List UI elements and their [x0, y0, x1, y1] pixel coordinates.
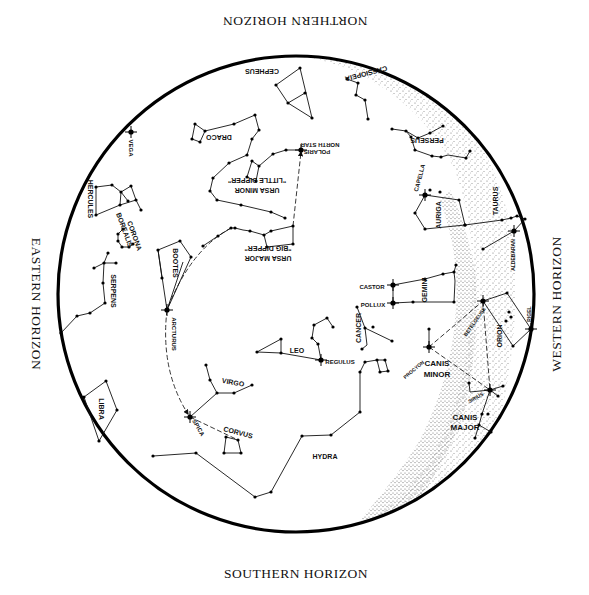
constellation-label: VEGA: [128, 139, 134, 157]
star-icon: [383, 358, 386, 361]
star-icon: [224, 435, 227, 438]
star-icon: [284, 148, 287, 151]
constellation-label: AURIGA: [435, 201, 442, 229]
star-icon: [211, 176, 214, 179]
star-icon: [325, 316, 328, 319]
star-icon: [454, 263, 457, 266]
constellation-regulus: REGULUS: [325, 359, 354, 365]
star-icon: [303, 91, 306, 94]
constellation-bootes: BOOTES: [156, 239, 192, 311]
star-icon: [255, 350, 258, 353]
star-icon: [358, 410, 361, 413]
star-icon: [310, 116, 313, 119]
western-horizon-label: WESTERN HORIZON: [549, 236, 565, 371]
star-icon: [467, 381, 470, 384]
constellation-label: POLLUX: [361, 302, 385, 308]
star-icon: [411, 300, 414, 303]
star-icon: [473, 436, 476, 439]
constellation-cepheus: CEPHEUS: [245, 66, 314, 119]
star-icon: [215, 198, 218, 201]
star-icon: [227, 161, 230, 164]
star-icon: [119, 190, 122, 193]
milky-way: [170, 40, 516, 560]
star-icon: [515, 214, 518, 217]
constellation-pollux: POLLUX: [361, 302, 385, 308]
star-icon: [496, 394, 499, 397]
star-icon: [269, 210, 272, 213]
star-icon: [480, 412, 483, 415]
star-icon: [439, 155, 442, 158]
star-icon: [115, 408, 118, 411]
star-icon: [441, 272, 444, 275]
constellation-label: NORTH STAR: [300, 142, 340, 148]
star-icon: [378, 370, 381, 373]
star-icon: [75, 314, 78, 317]
constellation-capella: CAPELLA: [413, 163, 426, 193]
star-icon: [279, 351, 282, 354]
constellation-corona-borealis: CORONABOREALIS: [115, 212, 143, 252]
star-chart: CEPHEUSCASSIOPEIAPERSEUSDRACOURSA MINOR"…: [0, 0, 589, 595]
star-icon: [316, 342, 319, 345]
star-icon: [428, 188, 431, 191]
constellation-virgo: VIRGO: [188, 363, 253, 418]
constellation-ursa-minor: URSA MINOR"LITTLE DIPPER": [228, 148, 303, 194]
constellation-label: HYDRA: [313, 453, 338, 460]
constellation-label: LIBRA: [98, 398, 105, 419]
star-icon: [239, 451, 242, 454]
star-icon: [156, 248, 159, 251]
constellation-line: [288, 93, 305, 103]
star-icon: [427, 327, 430, 330]
star-icon: [286, 101, 289, 104]
star-icon: [101, 281, 104, 284]
star-icon: [358, 370, 361, 373]
star-icon: [500, 218, 503, 221]
constellation-label: "BIG DIPPER": [244, 245, 291, 252]
bright-star-castor-icon: [387, 279, 399, 291]
star-icon: [457, 198, 460, 201]
star-icon: [463, 223, 466, 226]
constellation-label: MAJOR: [451, 423, 480, 432]
constellation-label: URSA MAJOR: [245, 255, 292, 262]
constellation-draco: DRACO: [190, 113, 286, 219]
star-icon: [203, 129, 206, 132]
star-icon: [198, 140, 201, 143]
star-icon: [208, 378, 211, 381]
star-icon: [371, 325, 374, 328]
star-icon: [413, 148, 416, 151]
star-icon: [106, 251, 109, 254]
constellation-arcturus: ARCTURUS: [171, 317, 177, 351]
star-icon: [363, 360, 366, 363]
star-icon: [481, 247, 484, 250]
star-icon: [366, 117, 369, 120]
star-icon: [509, 315, 512, 318]
constellation-cassiopeia: CASSIOPEIA: [344, 65, 388, 121]
constellation-label: HERCULES: [87, 180, 94, 219]
star-icon: [248, 229, 251, 232]
star-icon: [298, 66, 301, 69]
constellation-line: [365, 328, 392, 341]
star-icon: [236, 438, 239, 441]
star-icon: [193, 122, 196, 125]
star-icon: [363, 326, 366, 329]
constellation-label: RIGEL: [526, 306, 532, 321]
star-icon: [274, 83, 277, 86]
star-icon: [129, 184, 132, 187]
constellation-serpens: SERPENS: [59, 251, 117, 334]
star-icon: [430, 154, 433, 157]
constellation-label: CASTOR: [359, 284, 385, 290]
star-icon: [505, 291, 508, 294]
star-icon: [360, 347, 363, 350]
star-icon: [329, 433, 332, 436]
northern-horizon-label: NORTHERN HORIZON: [223, 13, 368, 29]
constellation-label: PROCYON: [402, 359, 426, 380]
star-icon: [355, 305, 358, 308]
constellation-line: [276, 68, 312, 118]
star-icon: [504, 319, 507, 322]
star-icon: [354, 93, 357, 96]
constellation-line: [158, 250, 162, 278]
star-icon: [390, 339, 393, 342]
star-icon: [390, 127, 393, 130]
star-icon: [216, 234, 219, 237]
star-icon: [423, 227, 426, 230]
constellation-label: SERPENS: [110, 274, 117, 308]
